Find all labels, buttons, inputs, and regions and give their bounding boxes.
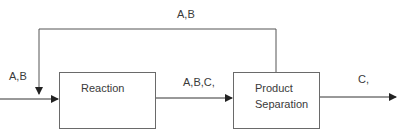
product-separation-label-line2: Separation — [255, 96, 308, 112]
reaction-block: Reaction — [59, 72, 156, 129]
product-separation-label-line1: Product — [255, 80, 293, 96]
recycle-stream-label: A,B — [177, 9, 195, 20]
feed-stream-label: A,B — [9, 71, 27, 82]
product-separation-block: Product Separation — [233, 72, 320, 129]
product-stream-label: C, — [358, 74, 369, 85]
reaction-block-label: Reaction — [81, 80, 124, 96]
reactor-outlet-stream-label: A,B,C, — [183, 77, 215, 88]
